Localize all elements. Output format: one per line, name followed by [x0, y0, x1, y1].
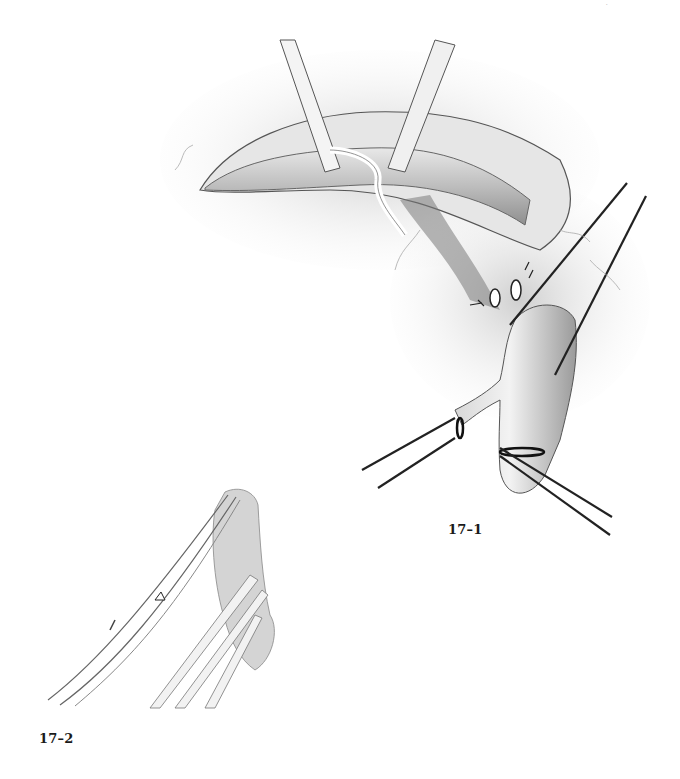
figure-17-1	[150, 30, 670, 550]
book-page: ·	[0, 0, 680, 779]
figure-label-17-1: 17–1	[448, 522, 482, 537]
figure-17-2	[40, 480, 290, 710]
scissors-forceps-illustration	[40, 480, 290, 710]
page-header-mark: ·	[605, 0, 608, 9]
vessel-dissection-illustration	[150, 30, 670, 550]
figure-label-17-2: 17–2	[39, 731, 73, 746]
